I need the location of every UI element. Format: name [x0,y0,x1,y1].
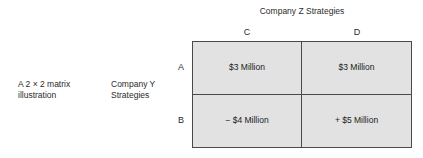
row-header-a: A [174,62,188,73]
illustration-caption: A 2 × 2 matrix illustration [18,79,104,100]
matrix-cell-b-c: − $4 Million [193,95,302,148]
column-header-c: C [192,27,302,38]
matrix-cell-a-c: $3 Million [193,42,302,95]
column-axis-title-company-z: Company Z Strategies [192,6,412,17]
matrix-cell-a-d: $3 Million [302,42,411,95]
payoff-matrix: $3 Million $3 Million − $4 Million + $5 … [192,41,412,148]
row-header-b: B [174,115,188,126]
matrix-cell-b-d: + $5 Million [302,95,411,148]
column-header-d: D [302,27,412,38]
row-axis-label-company-y: Company Y Strategies [111,79,181,100]
